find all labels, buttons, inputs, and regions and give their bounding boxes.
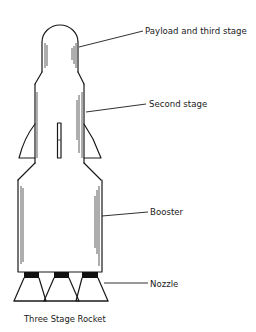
label-payload: Payload and third stage	[145, 26, 247, 36]
diagram-caption: Three Stage Rocket	[23, 314, 106, 324]
nozzle-bell-left	[14, 278, 46, 301]
fins	[19, 124, 101, 158]
payload-shoulder	[35, 72, 84, 84]
leader-lines	[79, 31, 148, 283]
leader-second-stage	[86, 104, 146, 112]
nozzle-throat-right	[82, 272, 98, 278]
label-booster: Booster	[150, 207, 184, 217]
leader-booster	[102, 212, 148, 216]
nozzle-throat-left	[24, 272, 39, 278]
nozzle-bell-right	[76, 278, 108, 301]
nozzle-bell-center	[44, 278, 79, 301]
booster-section	[18, 180, 102, 272]
payload-section	[42, 25, 78, 72]
label-nozzle: Nozzle	[150, 279, 178, 289]
booster-flare	[18, 163, 101, 180]
leader-payload	[79, 31, 143, 47]
nozzles	[14, 272, 108, 301]
labels: Payload and third stage Second stage Boo…	[145, 26, 247, 289]
left-fin	[19, 124, 35, 158]
label-second-stage: Second stage	[149, 99, 207, 109]
right-fin	[84, 124, 101, 158]
nozzle-throat-center	[54, 272, 69, 278]
second-stage-section	[35, 84, 84, 163]
three-stage-rocket-diagram: Payload and third stage Second stage Boo…	[0, 0, 256, 332]
center-slot	[58, 123, 62, 158]
